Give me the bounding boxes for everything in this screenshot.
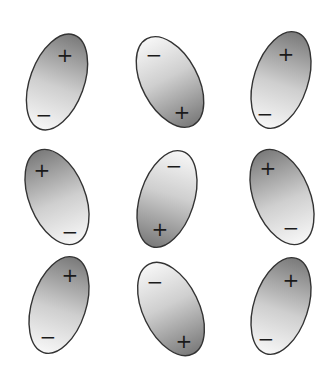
dipole-molecule: +− xyxy=(237,140,326,254)
positive-charge-label: + xyxy=(283,268,300,292)
positive-charge-label: + xyxy=(260,156,277,180)
negative-charge-label: − xyxy=(283,216,300,240)
negative-charge-label: − xyxy=(40,325,57,349)
positive-charge-label: + xyxy=(57,43,74,67)
dipole-molecule: +− xyxy=(240,24,322,136)
molecule-ellipse xyxy=(12,140,101,254)
negative-charge-label: − xyxy=(258,327,275,351)
molecule-ellipse xyxy=(124,252,218,366)
positive-charge-label: + xyxy=(176,329,193,353)
molecule-grid: +−+−+−+−+−+−+−+−+− xyxy=(12,24,326,366)
negative-charge-label: − xyxy=(36,103,53,127)
negative-charge-label: − xyxy=(166,154,183,178)
negative-charge-label: − xyxy=(147,270,164,294)
molecule-ellipse xyxy=(122,26,217,139)
dipole-molecule: +− xyxy=(126,143,208,255)
dipole-molecule: +− xyxy=(18,249,100,361)
molecule-ellipse xyxy=(240,250,322,362)
positive-charge-label: + xyxy=(34,158,51,182)
dipole-molecule: +− xyxy=(122,26,217,139)
molecule-ellipse xyxy=(18,249,100,361)
dipole-molecule: +− xyxy=(240,250,322,362)
molecule-ellipse xyxy=(240,24,322,136)
dipole-diagram: +−+−+−+−+−+−+−+−+− xyxy=(0,0,333,375)
dipole-molecule: +− xyxy=(124,252,218,366)
positive-charge-label: + xyxy=(278,42,295,66)
positive-charge-label: + xyxy=(152,217,169,241)
negative-charge-label: − xyxy=(257,102,274,126)
dipole-molecule: +− xyxy=(15,26,100,138)
dipole-molecule: +− xyxy=(12,140,101,254)
negative-charge-label: − xyxy=(62,220,79,244)
positive-charge-label: + xyxy=(174,100,191,124)
positive-charge-label: + xyxy=(62,263,79,287)
negative-charge-label: − xyxy=(146,43,163,67)
